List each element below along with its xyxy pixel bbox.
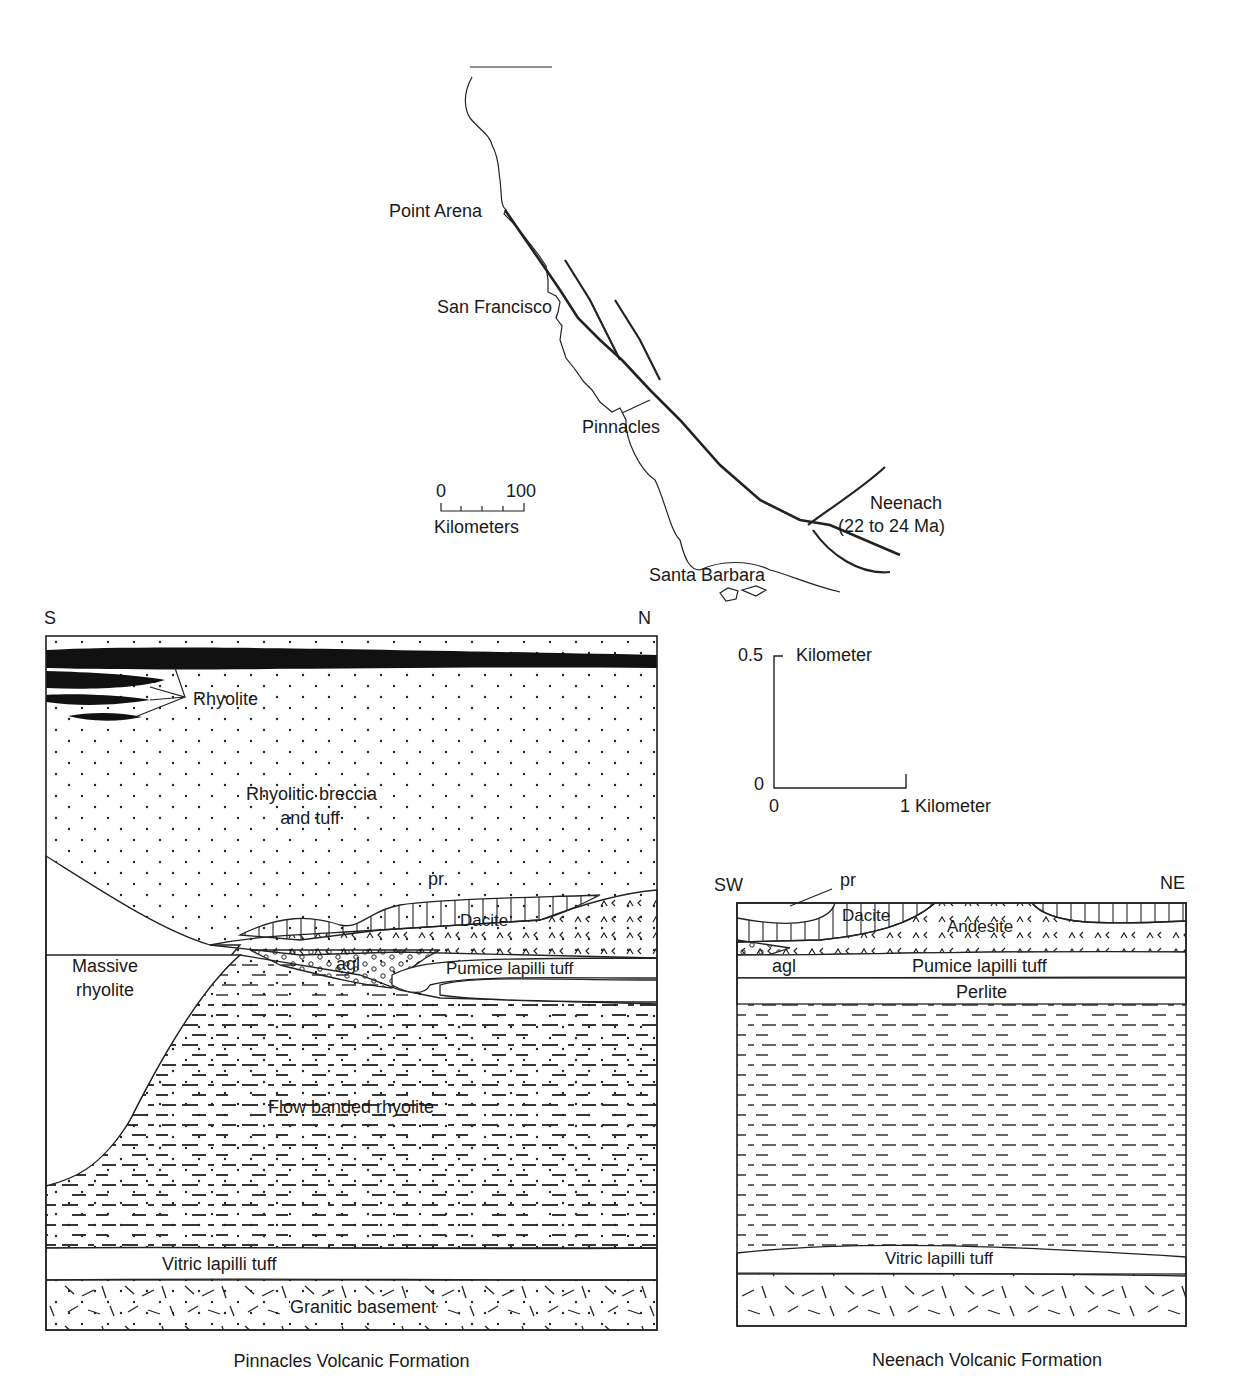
label-granitic-basement: Granitic basement: [290, 1298, 436, 1316]
label-neenach-pumice: Pumice lapilli tuff: [912, 957, 1047, 975]
pinnacles-dir-s: S: [44, 609, 56, 627]
figure-canvas: [0, 0, 1234, 1390]
section-scale-v-unit: Kilometer: [796, 646, 872, 664]
label-neenach-agl: agl: [772, 957, 796, 975]
label-massive-1: Massive: [60, 957, 150, 975]
vitric-lapilli-tuff: [46, 1247, 657, 1280]
fault-pinnacles-tick: [622, 400, 650, 413]
label-pinnacles: Pinnacles: [582, 418, 660, 436]
neenach-dir-ne: NE: [1160, 874, 1185, 892]
section-scale-v-bottom: 0: [754, 775, 764, 793]
label-pumice-lapilli-tuff: Pumice lapilli tuff: [446, 960, 573, 977]
label-neenach-age: (22 to 24 Ma): [838, 517, 945, 535]
pinnacles-dir-n: N: [638, 609, 651, 627]
neenach-caption: Neenach Volcanic Formation: [737, 1351, 1234, 1369]
map-scale-max: 100: [506, 482, 536, 500]
label-massive-2: rhyolite: [60, 981, 150, 999]
granitic-basement: [737, 1274, 1186, 1326]
label-dacite: Dacite: [460, 912, 508, 929]
label-rhyolite: Rhyolite: [193, 690, 258, 708]
label-flow-banded-rhyolite: Flow banded rhyolite: [268, 1098, 434, 1116]
label-santa-barbara: Santa Barbara: [649, 566, 765, 584]
label-point-arena: Point Arena: [389, 202, 482, 220]
label-neenach-andesite: Andesite: [947, 918, 1013, 935]
fault-san-andreas: [505, 210, 900, 555]
label-vitric-lapilli-tuff: Vitric lapilli tuff: [162, 1255, 276, 1273]
map: [465, 67, 900, 601]
pinnacles-caption: Pinnacles Volcanic Formation: [46, 1352, 657, 1370]
map-scale-bar: [441, 503, 524, 511]
label-agl: agl: [336, 955, 360, 973]
label-neenach-vitric: Vitric lapilli tuff: [885, 1250, 993, 1267]
label-rhyolitic-breccia-1: Rhyolitic breccia: [246, 785, 374, 803]
fault-branch-2: [615, 300, 660, 380]
section-scale-h-left: 0: [769, 797, 779, 815]
label-neenach-perlite: Perlite: [956, 983, 1007, 1001]
label-pr: pr: [428, 870, 444, 888]
label-san-francisco: San Francisco: [437, 298, 552, 316]
map-scale-unit: Kilometers: [434, 518, 519, 536]
coastline: [465, 77, 840, 592]
neenach-dir-sw: SW: [714, 876, 743, 894]
label-rhyolitic-breccia-2: and tuff: [246, 809, 374, 827]
label-neenach-dacite: Dacite: [842, 907, 890, 924]
section-scale-v-top: 0.5: [738, 646, 763, 664]
section-scale-bar: [774, 656, 906, 788]
map-scale-min: 0: [436, 482, 446, 500]
channel-islands: [720, 586, 766, 601]
fault-lower-neenach: [813, 530, 890, 572]
label-neenach-pr: pr: [840, 871, 856, 889]
label-neenach: Neenach: [870, 494, 942, 512]
section-scale-h-right: 1 Kilometer: [900, 797, 991, 815]
